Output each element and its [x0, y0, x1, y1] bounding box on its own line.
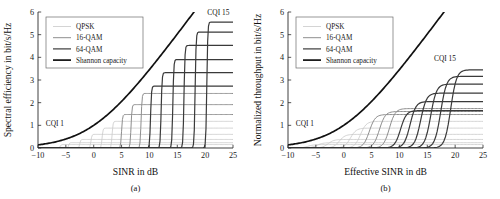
legend-label-qpsk: QPSK: [326, 23, 345, 31]
x-tick-label: 10: [395, 151, 403, 160]
panel-caption: (b): [380, 183, 390, 193]
y-tick-label: 6: [280, 8, 284, 17]
y-tick-label: 2: [280, 99, 284, 108]
x-tick-label: 15: [423, 151, 431, 160]
y-tick-label: 5: [30, 31, 34, 40]
legend-label-shannon-capacity: Shannon capacity: [76, 57, 127, 65]
annotation-cqi-15: CQI 15: [207, 8, 229, 17]
panel-caption: (a): [131, 183, 141, 193]
curve-cqi-3: [38, 139, 233, 148]
y-axis-title: Normalized throughput in bit/s/Hz: [252, 14, 263, 146]
y-tick-label: 3: [30, 76, 34, 85]
legend-label-16-qam: 16-QAM: [326, 34, 353, 42]
x-axis-title: Effective SINR in dB: [344, 166, 427, 177]
figure-container: −10−505101520250123456SINR in dBSpectral…: [0, 0, 500, 199]
x-tick-label: 20: [451, 151, 459, 160]
chart-svg-a: −10−505101520250123456SINR in dBSpectral…: [0, 0, 250, 199]
x-tick-label: 5: [370, 151, 374, 160]
curve-cqi-11: [38, 73, 233, 148]
x-tick-label: −5: [61, 151, 70, 160]
legend-label-16-qam: 16-QAM: [76, 34, 103, 42]
legend-a: QPSK16-QAM64-QAMShannon capacity: [46, 17, 143, 68]
y-axis-title: Spectral efficiency in bit/s/Hz: [2, 23, 13, 138]
y-tick-label: 4: [30, 53, 34, 62]
chart-panel-b: −10−505101520250123456Effective SINR in …: [250, 0, 500, 199]
x-tick-label: 15: [173, 151, 181, 160]
x-tick-label: 0: [342, 151, 346, 160]
y-tick-label: 1: [30, 121, 34, 130]
legend-b: QPSK16-QAM64-QAMShannon capacity: [296, 17, 393, 68]
x-tick-label: 20: [201, 151, 209, 160]
x-tick-label: 5: [120, 151, 124, 160]
y-tick-label: 0: [30, 144, 34, 153]
x-tick-label: 25: [229, 151, 237, 160]
chart-svg-b: −10−505101520250123456Effective SINR in …: [250, 0, 500, 199]
x-tick-label: 25: [479, 151, 487, 160]
legend-label-64-qam: 64-QAM: [326, 46, 353, 54]
y-tick-label: 1: [280, 121, 284, 130]
annotation-cqi-15: CQI 15: [434, 54, 456, 63]
y-tick-label: 3: [280, 76, 284, 85]
legend-label-shannon-capacity: Shannon capacity: [326, 57, 377, 65]
x-tick-label: −5: [311, 151, 320, 160]
annotation-cqi-1: CQI 1: [296, 119, 315, 128]
curve-cqi-4: [38, 134, 233, 148]
legend-label-64-qam: 64-QAM: [76, 46, 103, 54]
x-tick-label: 10: [145, 151, 153, 160]
y-tick-label: 5: [280, 31, 284, 40]
y-tick-label: 0: [280, 144, 284, 153]
y-tick-label: 6: [30, 8, 34, 17]
x-tick-label: 0: [92, 151, 96, 160]
curve-cqi-4: [288, 134, 483, 148]
annotation-cqi-1: CQI 1: [46, 119, 65, 128]
legend-label-qpsk: QPSK: [76, 23, 95, 31]
y-tick-label: 2: [30, 99, 34, 108]
x-axis-title: SINR in dB: [113, 166, 158, 177]
curve-cqi-8: [38, 105, 233, 148]
chart-panel-a: −10−505101520250123456SINR in dBSpectral…: [0, 0, 250, 199]
y-tick-label: 4: [280, 53, 284, 62]
